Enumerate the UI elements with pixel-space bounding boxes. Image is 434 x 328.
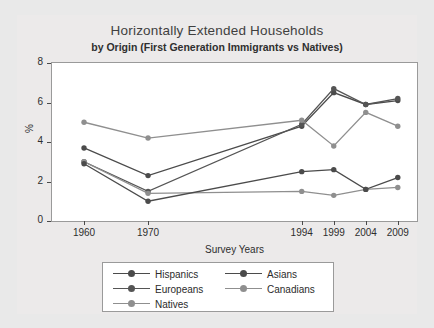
- x-tick-mark: [84, 221, 85, 225]
- series-europeans: [81, 86, 400, 194]
- legend-label: Natives: [155, 299, 188, 310]
- x-tick-label: 1970: [128, 227, 168, 238]
- series-line: [84, 89, 398, 192]
- x-tick-mark: [334, 221, 335, 225]
- legend-label: Europeans: [155, 284, 203, 295]
- legend-swatch-icon: [225, 284, 262, 294]
- series-line: [84, 112, 398, 146]
- x-tick-mark: [398, 221, 399, 225]
- series-canadians: [81, 110, 400, 149]
- plot-panel: [51, 62, 418, 222]
- legend-swatch-icon: [113, 269, 150, 279]
- data-point: [331, 143, 336, 148]
- x-tick-mark: [302, 221, 303, 225]
- legend-item-europeans[interactable]: Europeans: [113, 282, 203, 296]
- data-point: [145, 173, 150, 178]
- legend-label: Asians: [267, 269, 297, 280]
- y-tick-label: 6: [21, 96, 43, 107]
- data-point: [81, 161, 86, 166]
- y-tick-mark: [47, 142, 51, 143]
- y-tick-mark: [47, 63, 51, 64]
- page-title: Horizontally Extended Households: [17, 22, 417, 39]
- data-point: [81, 145, 86, 150]
- legend-column-right: AsiansCanadians: [225, 267, 315, 297]
- y-tick-label: 8: [21, 56, 43, 67]
- data-point: [331, 86, 336, 91]
- y-axis-label: %: [24, 124, 35, 133]
- y-tick-mark: [47, 221, 51, 222]
- x-axis-label: Survey Years: [51, 244, 418, 255]
- x-tick-mark: [148, 221, 149, 225]
- chart-screenshot: Horizontally Extended Households by Orig…: [0, 0, 434, 328]
- data-point: [331, 193, 336, 198]
- data-point: [299, 169, 304, 174]
- data-point: [395, 124, 400, 129]
- series-hispanics: [81, 90, 400, 178]
- data-point: [363, 110, 368, 115]
- x-tick-label: 2009: [378, 227, 418, 238]
- legend: HispanicsEuropeansNatives AsiansCanadian…: [102, 262, 334, 312]
- series-natives: [81, 159, 400, 198]
- y-tick-mark: [47, 103, 51, 104]
- data-point: [395, 185, 400, 190]
- x-tick-mark: [366, 221, 367, 225]
- plot-svg: [52, 63, 417, 221]
- y-tick-label: 4: [21, 135, 43, 146]
- legend-item-natives[interactable]: Natives: [113, 297, 203, 311]
- legend-column-left: HispanicsEuropeansNatives: [113, 267, 203, 312]
- legend-swatch-icon: [113, 284, 150, 294]
- legend-item-hispanics[interactable]: Hispanics: [113, 267, 203, 281]
- data-point: [145, 191, 150, 196]
- legend-item-canadians[interactable]: Canadians: [225, 282, 315, 296]
- y-tick-mark: [47, 182, 51, 183]
- legend-item-asians[interactable]: Asians: [225, 267, 315, 281]
- legend-label: Canadians: [267, 284, 315, 295]
- data-point: [395, 96, 400, 101]
- data-point: [145, 135, 150, 140]
- data-point: [299, 189, 304, 194]
- y-tick-label: 2: [21, 175, 43, 186]
- series-line: [84, 164, 398, 202]
- x-tick-label: 1960: [64, 227, 104, 238]
- legend-swatch-icon: [225, 269, 262, 279]
- data-point: [299, 118, 304, 123]
- title-block: Horizontally Extended Households by Orig…: [17, 22, 417, 54]
- data-point: [363, 102, 368, 107]
- data-point: [363, 187, 368, 192]
- legend-label: Hispanics: [155, 269, 198, 280]
- y-tick-label: 0: [21, 214, 43, 225]
- chart-subtitle: by Origin (First Generation Immigrants v…: [17, 40, 417, 54]
- legend-swatch-icon: [113, 299, 150, 309]
- data-point: [81, 120, 86, 125]
- data-point: [395, 175, 400, 180]
- data-point: [331, 167, 336, 172]
- data-point: [145, 199, 150, 204]
- series-line: [84, 162, 398, 196]
